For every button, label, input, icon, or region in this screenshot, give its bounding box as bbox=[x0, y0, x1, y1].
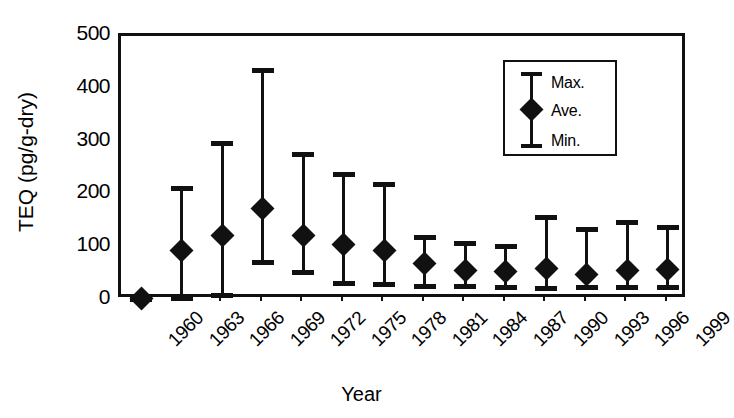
min-cap bbox=[616, 285, 638, 290]
x-tick-mark-1984 bbox=[462, 294, 464, 301]
min-cap bbox=[211, 293, 233, 298]
y-tick-label-300: 300 bbox=[52, 128, 110, 149]
x-tick-mark-1975 bbox=[341, 294, 343, 301]
max-cap bbox=[373, 182, 395, 187]
x-tick-label-1999: 1999 bbox=[691, 307, 734, 351]
x-tick-label-1984: 1984 bbox=[488, 307, 532, 351]
x-tick-mark-1999 bbox=[665, 294, 667, 301]
x-tick-mark-1960 bbox=[138, 294, 140, 301]
x-tick-label-1966: 1966 bbox=[245, 307, 289, 351]
data-point-1984 bbox=[451, 36, 479, 300]
max-cap bbox=[333, 172, 355, 177]
x-tick-label-1987: 1987 bbox=[529, 307, 573, 351]
ave-marker bbox=[413, 251, 437, 275]
x-tick-label-1990: 1990 bbox=[569, 307, 613, 351]
x-tick-label-1972: 1972 bbox=[326, 307, 370, 351]
min-cap bbox=[292, 270, 314, 275]
x-tick-mark-1966 bbox=[219, 294, 221, 301]
y-axis-ticks: 5004003002001000 bbox=[48, 0, 110, 418]
min-cap bbox=[454, 284, 476, 289]
x-tick-label-1963: 1963 bbox=[205, 307, 249, 351]
data-point-1975 bbox=[330, 36, 358, 300]
max-cap bbox=[292, 152, 314, 157]
ave-marker bbox=[575, 263, 599, 287]
y-axis-title: TEQ (pg/g-dry) bbox=[14, 52, 38, 272]
x-tick-mark-1969 bbox=[260, 294, 262, 301]
x-tick-label-1993: 1993 bbox=[610, 307, 654, 351]
legend-label-min: Min. bbox=[551, 132, 580, 150]
ave-marker bbox=[615, 259, 639, 283]
y-tick-label-100: 100 bbox=[52, 233, 110, 254]
data-point-1999 bbox=[654, 36, 682, 300]
min-cap bbox=[495, 285, 517, 290]
data-point-1978 bbox=[370, 36, 398, 300]
x-tick-mark-1996 bbox=[624, 294, 626, 301]
max-cap bbox=[576, 227, 598, 232]
ave-marker bbox=[129, 286, 153, 310]
whisker-line bbox=[342, 174, 345, 284]
x-tick-mark-1987 bbox=[503, 294, 505, 301]
data-point-1981 bbox=[411, 36, 439, 300]
data-point-1996 bbox=[613, 36, 641, 300]
legend-errorbar-icon bbox=[519, 70, 545, 150]
legend-label-ave: Ave. bbox=[551, 102, 582, 120]
x-tick-label-1978: 1978 bbox=[407, 307, 451, 351]
min-cap bbox=[535, 286, 557, 291]
min-cap bbox=[373, 282, 395, 287]
legend-label-max: Max. bbox=[551, 74, 584, 92]
ave-marker bbox=[656, 257, 680, 281]
y-tick-label-0: 0 bbox=[52, 286, 110, 307]
max-cap bbox=[657, 225, 679, 230]
y-tick-label-200: 200 bbox=[52, 180, 110, 201]
data-point-1966 bbox=[208, 36, 236, 300]
x-tick-label-1975: 1975 bbox=[367, 307, 411, 351]
min-cap bbox=[333, 281, 355, 286]
max-cap bbox=[211, 141, 233, 146]
max-cap bbox=[535, 215, 557, 220]
ave-marker bbox=[170, 239, 194, 263]
x-tick-mark-1978 bbox=[381, 294, 383, 301]
min-cap bbox=[414, 284, 436, 289]
min-cap bbox=[252, 260, 274, 265]
x-tick-mark-1993 bbox=[584, 294, 586, 301]
max-cap bbox=[454, 241, 476, 246]
max-cap bbox=[252, 68, 274, 73]
min-cap bbox=[171, 296, 193, 301]
whisker-line bbox=[383, 184, 386, 285]
x-tick-label-1969: 1969 bbox=[286, 307, 330, 351]
ave-marker bbox=[372, 239, 396, 263]
x-tick-label-1960: 1960 bbox=[164, 307, 208, 351]
ave-marker bbox=[210, 224, 234, 248]
x-tick-mark-1990 bbox=[543, 294, 545, 301]
max-cap bbox=[616, 220, 638, 225]
ave-marker bbox=[251, 197, 275, 221]
ave-marker bbox=[332, 233, 356, 257]
data-point-1960 bbox=[127, 36, 155, 300]
x-tick-label-1981: 1981 bbox=[448, 307, 492, 351]
data-point-1963 bbox=[168, 36, 196, 300]
data-point-1969 bbox=[249, 36, 277, 300]
whisker-line bbox=[302, 154, 305, 273]
y-tick-label-400: 400 bbox=[52, 75, 110, 96]
chart-legend: Max. Ave. Min. bbox=[503, 60, 617, 156]
ave-marker bbox=[534, 256, 558, 280]
x-tick-mark-1972 bbox=[300, 294, 302, 301]
ave-marker bbox=[494, 259, 518, 283]
data-point-1972 bbox=[289, 36, 317, 300]
x-tick-mark-1963 bbox=[179, 294, 181, 301]
x-tick-mark-1981 bbox=[422, 294, 424, 301]
max-cap bbox=[171, 186, 193, 191]
max-cap bbox=[495, 244, 517, 249]
ave-marker bbox=[453, 259, 477, 283]
max-cap bbox=[414, 235, 436, 240]
whisker-line bbox=[221, 143, 224, 297]
x-tick-label-1996: 1996 bbox=[650, 307, 694, 351]
ave-marker bbox=[291, 224, 315, 248]
min-cap bbox=[657, 285, 679, 290]
y-tick-label-500: 500 bbox=[52, 22, 110, 43]
x-axis-title: Year bbox=[0, 383, 723, 406]
whisker-line bbox=[261, 70, 264, 263]
